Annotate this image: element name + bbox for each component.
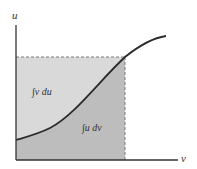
u-axis-label: u: [12, 9, 18, 21]
v-axis-label: v: [181, 152, 186, 164]
region-upper-label: ∫v du: [31, 86, 52, 98]
integration-by-parts-diagram: u v ∫v du ∫u dv: [0, 0, 197, 169]
region-lower-label: ∫u dv: [81, 122, 102, 134]
